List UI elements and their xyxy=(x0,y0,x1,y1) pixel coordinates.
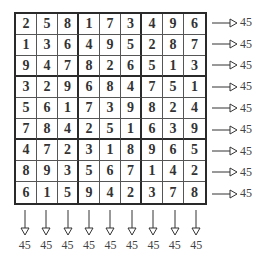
column-sum-arrows: 454545454545454545 xyxy=(14,210,207,253)
grid-cell: 6 xyxy=(142,119,163,140)
column-sum: 45 xyxy=(14,210,35,253)
grid-cell: 2 xyxy=(184,161,205,182)
arrow-down-icon xyxy=(20,210,30,236)
grid-cell: 3 xyxy=(79,140,100,161)
grid-cell: 7 xyxy=(163,182,184,203)
grid-cell: 4 xyxy=(16,140,37,161)
arrow-right-icon xyxy=(212,103,238,113)
row-sum-value: 45 xyxy=(240,15,252,30)
grid-cell: 3 xyxy=(142,182,163,203)
grid-cell: 6 xyxy=(100,161,121,182)
arrow-right-icon xyxy=(212,167,238,177)
grid-cell: 4 xyxy=(184,98,205,119)
grid-cell: 3 xyxy=(184,56,205,77)
grid-cell: 7 xyxy=(184,35,205,56)
grid-cell: 2 xyxy=(142,35,163,56)
grid-cell: 5 xyxy=(100,119,121,140)
grid-cell: 5 xyxy=(16,98,37,119)
grid-cell: 8 xyxy=(16,161,37,182)
arrow-down-icon xyxy=(105,210,115,236)
grid-cell: 7 xyxy=(100,14,121,35)
row-sum: 45 xyxy=(212,12,268,33)
arrow-right-icon xyxy=(212,125,238,135)
arrow-down-icon xyxy=(191,210,201,236)
grid-cell: 7 xyxy=(58,56,79,77)
grid-cell: 1 xyxy=(121,119,142,140)
grid-cell: 9 xyxy=(184,119,205,140)
arrow-right-icon xyxy=(212,39,238,49)
column-sum: 45 xyxy=(143,210,164,253)
grid-cell: 6 xyxy=(58,35,79,56)
row-sum-value: 45 xyxy=(240,58,252,73)
arrow-down-icon xyxy=(127,210,137,236)
row-sum: 45 xyxy=(212,33,268,54)
grid-cell: 9 xyxy=(121,98,142,119)
arrow-down-icon xyxy=(148,210,158,236)
grid-cell: 9 xyxy=(16,56,37,77)
grid-cell: 2 xyxy=(79,119,100,140)
arrow-right-icon xyxy=(212,146,238,156)
column-sum-value: 45 xyxy=(169,238,181,253)
grid-cell: 1 xyxy=(142,161,163,182)
row-sum-value: 45 xyxy=(240,79,252,94)
grid-cell: 6 xyxy=(163,140,184,161)
column-sum: 45 xyxy=(100,210,121,253)
arrow-right-icon xyxy=(212,60,238,70)
grid-cell: 7 xyxy=(16,119,37,140)
grid-cell: 3 xyxy=(100,98,121,119)
grid-cell: 2 xyxy=(121,182,142,203)
column-sum-value: 45 xyxy=(104,238,116,253)
grid-cell: 6 xyxy=(37,98,58,119)
row-sum: 45 xyxy=(212,98,268,119)
grid-cell: 7 xyxy=(142,77,163,98)
column-sum-value: 45 xyxy=(126,238,138,253)
column-sum: 45 xyxy=(186,210,207,253)
grid-cell: 6 xyxy=(79,77,100,98)
grid-cell: 8 xyxy=(79,56,100,77)
grid-cell: 2 xyxy=(163,98,184,119)
grid-cell: 6 xyxy=(184,14,205,35)
row-sum-value: 45 xyxy=(240,122,252,137)
grid-cell: 9 xyxy=(100,35,121,56)
row-sum-value: 45 xyxy=(240,37,252,52)
column-sum-value: 45 xyxy=(40,238,52,253)
grid-cell: 4 xyxy=(121,77,142,98)
grid-cell: 9 xyxy=(37,161,58,182)
grid-cell: 3 xyxy=(16,77,37,98)
grid-cell: 4 xyxy=(142,14,163,35)
arrow-right-icon xyxy=(212,18,238,28)
column-sum: 45 xyxy=(78,210,99,253)
row-sum: 45 xyxy=(212,119,268,140)
grid-cell: 5 xyxy=(184,140,205,161)
column-sum-value: 45 xyxy=(19,238,31,253)
grid-cell: 4 xyxy=(100,182,121,203)
grid-cell: 9 xyxy=(79,182,100,203)
row-sum: 45 xyxy=(212,183,268,204)
grid-cell: 9 xyxy=(163,14,184,35)
grid-cell: 1 xyxy=(79,14,100,35)
grid-cell: 8 xyxy=(37,119,58,140)
grid-cell: 7 xyxy=(79,98,100,119)
grid-cell: 8 xyxy=(58,14,79,35)
grid-cell: 6 xyxy=(16,182,37,203)
grid-cell: 5 xyxy=(163,77,184,98)
arrow-down-icon xyxy=(41,210,51,236)
column-sum-value: 45 xyxy=(190,238,202,253)
grid-cell: 4 xyxy=(163,161,184,182)
grid-cell: 2 xyxy=(100,56,121,77)
arrow-down-icon xyxy=(170,210,180,236)
grid-cell: 1 xyxy=(37,182,58,203)
column-sum: 45 xyxy=(35,210,56,253)
grid-cell: 4 xyxy=(79,35,100,56)
grid-cell: 8 xyxy=(163,35,184,56)
grid-cell: 1 xyxy=(184,77,205,98)
arrow-right-icon xyxy=(212,82,238,92)
grid-cell: 2 xyxy=(58,140,79,161)
grid-cell: 7 xyxy=(121,161,142,182)
row-sum: 45 xyxy=(212,76,268,97)
column-sum-value: 45 xyxy=(62,238,74,253)
grid-cell: 9 xyxy=(142,140,163,161)
row-sum-arrows: 454545454545454545 xyxy=(212,12,268,205)
grid-cell: 1 xyxy=(58,98,79,119)
grid-cell: 3 xyxy=(163,119,184,140)
